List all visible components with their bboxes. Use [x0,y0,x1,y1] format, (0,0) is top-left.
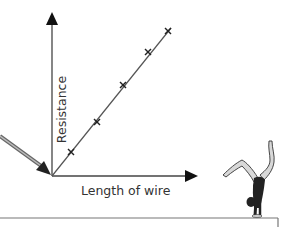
x-axis [52,170,198,182]
origin-pointer-arrow-icon [0,136,51,175]
data-point-cross-icon [145,49,151,55]
balance-beam [0,218,278,227]
x-axis-label: Length of wire [81,183,170,198]
data-point-cross-icon [68,149,74,155]
y-axis-label: Resistance [54,70,69,150]
x-axis-arrowhead-icon [185,170,198,182]
y-axis-arrowhead-icon [46,12,58,25]
gymnast-illustration-icon [223,141,274,218]
data-point-cross-icon [165,28,171,34]
